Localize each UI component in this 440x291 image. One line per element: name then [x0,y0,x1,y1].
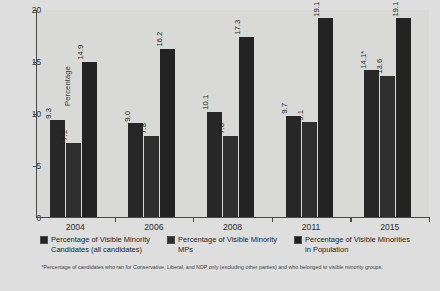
bar-value-label: 10.1 [207,102,215,117]
chart-footnote: *Percentage of candidates who ran for Co… [44,264,414,272]
bar-2011-series-3: 19.1 [318,18,333,217]
bar-2015-series-3: 19.1 [396,18,411,217]
bar-value-text: 9.1 [298,110,306,121]
bar-value-label: 16.2 [160,39,168,54]
legend-swatch-icon [167,236,175,244]
bar-group-2008: 10.17.817.3 [194,10,273,217]
bar-group-2011: 9.79.119.1 [273,10,352,217]
bar-2015-series-2: 13.6 [380,76,395,217]
legend-item-1[interactable]: Percentage of Visible Minority Candidate… [40,235,158,255]
bar-value-label: 9.3 [50,113,58,124]
bar-value-text: 7.1 [62,130,70,141]
bar-value-label: 13.6 [380,66,388,81]
bar-2015-series-1: 14.1* [364,70,379,217]
bar-2006-series-2: 7.8 [144,136,159,217]
x-axis-tick-mark [429,217,430,222]
bar-value-text: 14.1* [360,50,368,68]
bar-value-text: 16.2 [156,32,164,47]
bar-2011-series-2: 9.1 [302,122,317,217]
bars-layer: 9.37.114.99.07.816.210.17.817.39.79.119.… [37,10,429,217]
bar-2006-series-1: 9.0 [128,123,143,217]
bar-value-label: 14.9 [82,53,90,68]
bar-value-label: 9.0 [128,116,136,127]
bar-value-label: 14.1* [364,59,372,77]
legend-item-3[interactable]: Percentage of Visible Minorities in Popu… [294,235,412,255]
bar-value-text: 10.1 [203,95,211,110]
bar-2008-series-2: 7.8 [223,136,238,217]
x-axis-tick-labels: 20042006200820112015 [36,222,429,234]
bar-value-text: 14.9 [78,45,86,60]
legend-swatch-icon [294,236,302,244]
bar-2008-series-3: 17.3 [239,37,254,217]
bar-value-text: 17.3 [235,20,243,35]
bar-2006-series-3: 16.2 [160,49,175,217]
x-axis-label-2004: 2004 [36,222,115,232]
bar-value-label: 7.8 [144,129,152,140]
bar-group-2006: 9.07.816.2 [116,10,195,217]
legend-swatch-icon [40,236,48,244]
legend-label: Percentage of Visible Minority MPs [178,235,285,255]
bar-value-text: 9.0 [124,111,132,122]
legend-label: Percentage of Visible Minorities in Popu… [305,235,412,255]
bar-value-text: 19.1 [392,1,400,16]
bar-group-2004: 9.37.114.9 [37,10,116,217]
bar-value-label: 7.1 [66,136,74,147]
bar-2011-series-1: 9.7 [286,116,301,217]
bar-value-label: 7.8 [223,129,231,140]
chart-legend: Percentage of Visible Minority Candidate… [40,235,412,255]
bar-group-2015: 14.1*13.619.1 [351,10,430,217]
bar-2004-series-2: 7.1 [66,143,81,217]
x-axis-label-2008: 2008 [193,222,272,232]
bar-value-text: 19.1 [314,1,322,16]
x-axis-label-2015: 2015 [350,222,429,232]
legend-label: Percentage of Visible Minority Candidate… [51,235,158,255]
bar-value-label: 9.1 [301,115,309,126]
x-axis-label-2011: 2011 [272,222,351,232]
bar-value-label: 17.3 [239,28,247,43]
bar-value-text: 9.3 [46,108,54,119]
bar-value-label: 19.1 [396,9,404,24]
x-axis-label-2006: 2006 [115,222,194,232]
bar-value-text: 13.6 [376,59,384,74]
bar-2004-series-3: 14.9 [82,62,97,217]
bar-value-text: 9.7 [282,103,290,114]
bar-value-label: 9.7 [285,109,293,120]
chart-figure: Percentage 05101520 9.37.114.99.07.816.2… [0,0,440,291]
bar-value-text: 7.8 [140,123,148,134]
plot-area: Percentage 05101520 9.37.114.99.07.816.2… [36,10,429,218]
legend-item-2[interactable]: Percentage of Visible Minority MPs [167,235,285,255]
bar-value-text: 7.8 [219,123,227,134]
bar-value-label: 19.1 [317,9,325,24]
